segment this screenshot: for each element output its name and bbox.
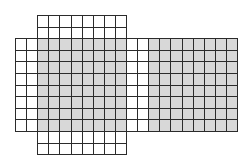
shaded-cell <box>226 119 238 132</box>
grid-cell <box>115 143 127 155</box>
